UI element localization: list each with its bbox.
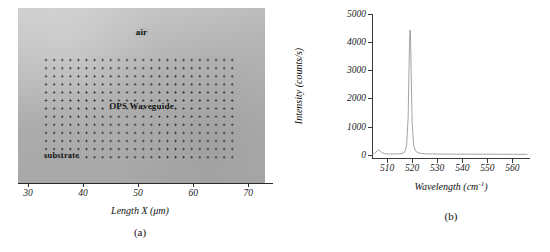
y-tick-label: 4000 — [347, 37, 366, 47]
spectrum-curve — [372, 14, 530, 159]
x-tick-label: 550 — [480, 163, 494, 173]
x-axis-title-close: ) — [484, 181, 487, 192]
x-tick-label: 530 — [430, 163, 444, 173]
x-tick-label: 520 — [405, 163, 419, 173]
panel-a-tick — [193, 183, 194, 187]
y-tick-label: 0 — [361, 150, 366, 160]
y-tick-label: 1000 — [347, 122, 366, 132]
panel-a-x-axis-line — [18, 183, 273, 184]
label-substrate: substrate — [44, 150, 79, 160]
panel-b-caption: (b) — [445, 210, 458, 222]
panel-a-tick — [28, 183, 29, 187]
panel-a-axis-title: Length X (μm) — [111, 205, 169, 216]
label-air: air — [136, 27, 148, 37]
panel-a-tick-label: 30 — [23, 188, 33, 198]
panel-b-spectrum: Intensity (counts/s) 0100020003000400050… — [280, 0, 550, 252]
label-ops-waveguide: OPS Waveguide — [109, 101, 174, 111]
panel-a-tick-label: 50 — [133, 188, 143, 198]
x-tick-label: 540 — [455, 163, 469, 173]
y-tick-label: 2000 — [347, 93, 366, 103]
plot-area: 010002000300040005000 510520530540550560 — [372, 14, 530, 159]
panel-a-tick — [83, 183, 84, 187]
x-axis-title: Wavelength (cm-1) — [415, 180, 488, 192]
x-tick-label: 510 — [380, 163, 394, 173]
y-axis-title: Intensity (counts/s) — [293, 48, 304, 124]
micrograph-container: air OPS Waveguide substrate — [18, 8, 265, 183]
panel-a-micrograph: air OPS Waveguide substrate 3040506070 L… — [0, 0, 280, 252]
panel-a-caption: (a) — [134, 226, 146, 238]
panel-a-tick — [248, 183, 249, 187]
x-tick-label: 560 — [505, 163, 519, 173]
y-tick-label: 3000 — [347, 65, 366, 75]
y-tick-label: 5000 — [347, 9, 366, 19]
panel-a-tick-label: 70 — [243, 188, 253, 198]
figure-two-panel: air OPS Waveguide substrate 3040506070 L… — [0, 0, 550, 252]
panel-a-tick-label: 40 — [78, 188, 88, 198]
panel-a-tick — [138, 183, 139, 187]
x-axis-title-text: Wavelength (cm — [415, 181, 479, 192]
panel-a-tick-label: 60 — [188, 188, 198, 198]
